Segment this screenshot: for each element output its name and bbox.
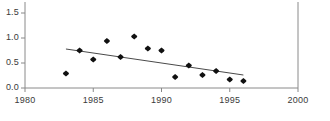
- x-axis-tick-label: 1990: [142, 96, 182, 105]
- x-axis-tick-label: 1980: [5, 96, 45, 105]
- y-axis-tick-label: 1.5: [0, 8, 19, 17]
- y-axis-ticks: [21, 13, 25, 88]
- data-point: [158, 47, 164, 53]
- data-point: [240, 78, 246, 84]
- x-axis-tick-label: 1985: [73, 96, 113, 105]
- data-point: [63, 70, 69, 76]
- data-point: [199, 72, 205, 78]
- scatter-chart: 0.00.51.01.5 19801985199019952000: [0, 0, 330, 121]
- data-point: [90, 56, 96, 62]
- data-point-markers: [63, 33, 247, 84]
- y-axis-tick-label: 0.5: [0, 58, 19, 67]
- data-point: [131, 33, 137, 39]
- y-axis-tick-label: 0.0: [0, 83, 19, 92]
- x-axis-tick-label: 2000: [278, 96, 318, 105]
- data-point: [117, 54, 123, 60]
- x-axis-tick-label: 1995: [210, 96, 250, 105]
- data-point: [104, 38, 110, 44]
- data-point: [227, 76, 233, 82]
- data-point: [213, 68, 219, 74]
- data-point: [77, 47, 83, 53]
- x-axis-ticks: [25, 88, 298, 92]
- y-axis-tick-label: 1.0: [0, 33, 19, 42]
- data-point: [145, 45, 151, 51]
- data-point: [172, 74, 178, 80]
